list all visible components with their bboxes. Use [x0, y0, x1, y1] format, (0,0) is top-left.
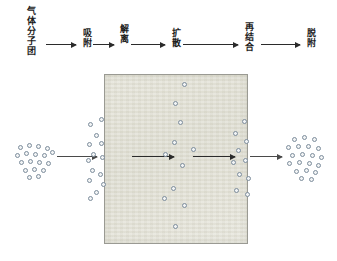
gas-molecule: [309, 177, 314, 182]
gas-molecule: [18, 145, 23, 150]
gas-molecule: [172, 140, 177, 145]
process-diagram-figure: 气体分子团 吸附 解离 扩散 再结合 脱附: [0, 0, 337, 261]
gas-molecule: [294, 169, 299, 174]
gas-molecule: [94, 133, 99, 138]
gas-molecule: [86, 158, 91, 163]
gas-molecule: [101, 182, 106, 187]
gas-molecule: [191, 147, 196, 152]
gas-molecule: [173, 101, 178, 106]
gas-molecule: [46, 161, 51, 166]
label-diffusion: 扩散: [170, 28, 181, 48]
gas-molecule: [182, 82, 187, 87]
gas-molecule: [306, 144, 311, 149]
gas-molecule: [243, 158, 248, 163]
gas-molecule: [36, 174, 41, 179]
gas-molecule: [87, 142, 92, 147]
flow-arrow-2: [93, 44, 114, 45]
gas-molecule: [15, 153, 20, 158]
label-gas-cluster: 气体分子团: [25, 6, 36, 56]
gas-molecule: [171, 186, 176, 191]
gas-molecule: [180, 163, 185, 168]
gas-molecule: [304, 168, 309, 173]
gas-molecule: [246, 176, 251, 181]
flow-arrow-1: [46, 44, 76, 45]
gas-molecule: [300, 152, 305, 157]
inner-diffusion-arrow-right: [193, 156, 235, 157]
gas-molecule: [37, 160, 42, 165]
label-desorption: 脱附: [305, 28, 316, 48]
label-adsorption: 吸附: [81, 28, 92, 48]
gas-molecule: [316, 146, 321, 151]
label-dissociation: 解离: [118, 24, 129, 44]
gas-molecule: [233, 131, 238, 136]
gas-molecule: [313, 170, 318, 175]
gas-molecule: [236, 148, 241, 153]
gas-molecule: [33, 152, 38, 157]
gas-molecule: [244, 139, 249, 144]
gas-molecule: [242, 119, 247, 124]
gas-molecule: [310, 153, 315, 158]
gas-molecule: [316, 163, 321, 168]
gas-molecule: [24, 151, 29, 156]
gas-molecule: [162, 196, 167, 201]
gas-molecule: [319, 155, 324, 160]
gas-molecule: [297, 160, 302, 165]
gas-molecule: [19, 160, 24, 165]
gas-molecule: [234, 188, 239, 193]
gas-molecule: [99, 117, 104, 122]
gas-molecule: [45, 146, 50, 151]
gas-molecule: [88, 122, 93, 127]
gas-molecule: [41, 168, 46, 173]
gas-molecule: [296, 144, 301, 149]
gas-molecule: [28, 159, 33, 164]
gas-molecule: [32, 167, 37, 172]
gas-molecule: [182, 203, 187, 208]
gas-molecule: [88, 196, 93, 201]
gas-molecule: [36, 144, 41, 149]
gas-molecule: [231, 160, 236, 165]
gas-molecule: [307, 161, 312, 166]
gas-molecule: [27, 175, 32, 180]
gas-molecule: [98, 172, 103, 177]
gas-molecule: [173, 224, 178, 229]
flow-arrow-4: [183, 44, 238, 45]
gas-molecule: [302, 135, 307, 140]
flow-arrow-5: [261, 44, 300, 45]
gas-molecule: [163, 152, 168, 157]
gas-molecule: [27, 143, 32, 148]
inner-diffusion-arrow-left: [132, 156, 174, 157]
gas-molecule: [290, 153, 295, 158]
gas-molecule: [287, 161, 292, 166]
gas-molecule: [100, 155, 105, 160]
gas-molecule: [312, 137, 317, 142]
gas-molecule: [87, 178, 92, 183]
membrane-slab: [104, 74, 248, 244]
gas-molecule: [42, 153, 47, 158]
gas-molecule: [94, 190, 99, 195]
gas-molecule: [245, 192, 250, 197]
gas-molecule: [50, 150, 55, 155]
gas-molecule: [178, 120, 183, 125]
gas-molecule: [286, 145, 291, 150]
gas-molecule: [23, 168, 28, 173]
gas-molecule: [90, 168, 95, 173]
gas-molecule: [99, 141, 104, 146]
gas-molecule: [237, 172, 242, 177]
label-recombination: 再结合: [243, 22, 254, 52]
permeate-stream-arrow: [250, 156, 282, 157]
gas-molecule: [91, 152, 96, 157]
gas-molecule: [299, 176, 304, 181]
gas-molecule: [292, 137, 297, 142]
flow-arrow-3: [131, 44, 165, 45]
